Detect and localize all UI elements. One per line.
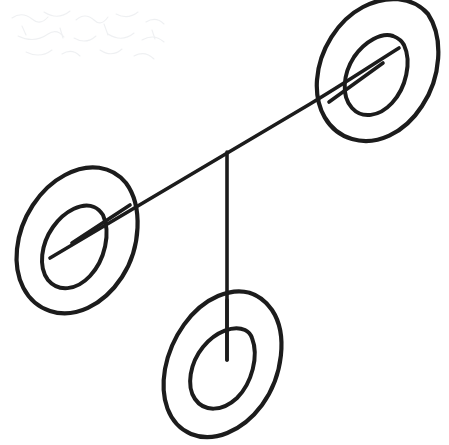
node-top-right-stub — [329, 63, 383, 102]
node-top-right-outer-ellipse — [317, 0, 439, 141]
node-top-right — [317, 0, 439, 141]
sketch-canvas — [0, 0, 449, 445]
node-bottom — [164, 291, 282, 437]
node-left — [17, 167, 138, 313]
node-bottom-inner-ellipse — [190, 328, 255, 408]
sketch-drawing — [0, 0, 449, 445]
node-left-inner-ellipse — [42, 206, 107, 289]
node-bottom-outer-ellipse — [164, 291, 282, 437]
